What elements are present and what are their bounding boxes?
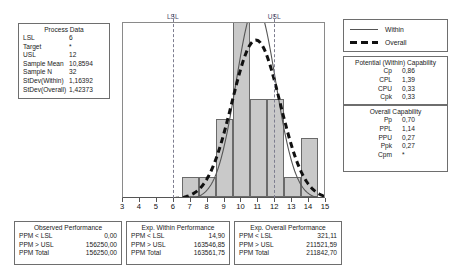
process-data-value: 10,8594	[69, 60, 105, 69]
table-row: Cp0,86	[350, 67, 441, 76]
axis-tick-label: 9	[221, 202, 225, 211]
table-row: CPL1,39	[350, 76, 441, 85]
capability-value: 0,86	[402, 67, 432, 76]
capability-value: 0,33	[402, 93, 432, 102]
performance-value: 14,90	[183, 232, 225, 241]
process-data-label: StDev(Within)	[23, 77, 69, 86]
observed-performance-table: Observed Performance PPM < LSL0,00PPM > …	[14, 221, 122, 265]
performance-value: 321,11	[291, 232, 337, 241]
performance-value: 156250,00	[71, 249, 117, 258]
performance-value: 211842,70	[291, 249, 337, 258]
axis-tick-label: 11	[253, 202, 261, 211]
table-row: CPU0,33	[350, 85, 441, 94]
capability-label: PPU	[350, 134, 402, 143]
process-data-label: LSL	[23, 34, 69, 43]
table-row: Sample Mean10,8594	[23, 60, 105, 69]
performance-value: 163546,85	[183, 241, 225, 250]
table-row: PPL1,14	[350, 125, 441, 134]
legend-dashed-line-icon	[350, 39, 378, 47]
process-data-value: 6	[69, 34, 105, 43]
capability-label: Cpm	[350, 151, 402, 160]
performance-label: PPM Total	[131, 249, 183, 258]
legend-item: Within	[350, 23, 441, 36]
table-row: LSL6	[23, 34, 105, 43]
curve-legend: WithinOverall	[343, 19, 448, 52]
capability-label: CPL	[350, 76, 402, 85]
process-data-value: 32	[69, 68, 105, 77]
process-data-value: 1,16392	[69, 77, 105, 86]
table-row: Cpk0,33	[350, 93, 441, 102]
capability-label: PPL	[350, 125, 402, 134]
axis-tick-label: 12	[270, 202, 278, 211]
capability-label: CPU	[350, 85, 402, 94]
performance-value: 0,00	[71, 232, 117, 241]
table-row: Pp0,70	[350, 116, 441, 125]
table-row: StDev(Overall)1,42373	[23, 86, 105, 95]
overall-capability-rows: Pp0,70PPL1,14PPU0,27Ppk0,27Cpm*	[350, 116, 441, 160]
axis-tick-label: 10	[236, 202, 244, 211]
performance-label: PPM < LSL	[239, 232, 291, 241]
capability-value: *	[402, 151, 432, 160]
curve-overall	[123, 40, 325, 198]
table-row: Cpm*	[350, 151, 441, 160]
process-data-value: 1,42373	[69, 86, 105, 95]
capability-value: 0,27	[402, 134, 432, 143]
plot-frame	[122, 22, 325, 198]
performance-label: PPM > USL	[131, 241, 183, 250]
capability-histogram-chart: LSLUSL	[122, 22, 325, 198]
capability-label: Ppk	[350, 142, 402, 151]
exp-overall-performance-table: Exp. Overall Performance PPM < LSL321,11…	[234, 221, 342, 265]
capability-value: 0,33	[402, 85, 432, 94]
table-row: PPM > USL156250,00	[19, 241, 117, 250]
spec-label-usl: USL	[268, 13, 281, 20]
axis-tick-label: 7	[188, 202, 192, 211]
observed-performance-rows: PPM < LSL0,00PPM > USL156250,00PPM Total…	[19, 232, 117, 258]
axis-tick-label: 8	[204, 202, 208, 211]
within-capability-rows: Cp0,86CPL1,39CPU0,33Cpk0,33	[350, 67, 441, 102]
process-data-label: Sample N	[23, 68, 69, 77]
capability-value: 1,39	[402, 76, 432, 85]
table-row: Sample N32	[23, 68, 105, 77]
legend-solid-line-icon	[350, 26, 378, 34]
performance-value: 211521,59	[291, 241, 337, 250]
overall-capability-table: Overall Capability Pp0,70PPL1,14PPU0,27P…	[343, 105, 448, 172]
capability-label: Cpk	[350, 93, 402, 102]
table-row: PPM < LSL0,00	[19, 232, 117, 241]
axis-tick-label: 5	[154, 202, 158, 211]
axis-tick-label: 4	[137, 202, 141, 211]
performance-label: PPM < LSL	[131, 232, 183, 241]
capability-value: 0,70	[402, 116, 432, 125]
performance-value: 156250,00	[71, 241, 117, 250]
legend-item: Overall	[350, 36, 441, 49]
potential-within-capability-table: Potential (Within) Capability Cp0,86CPL1…	[343, 56, 448, 105]
process-data-title: Process Data	[23, 24, 105, 34]
performance-label: PPM Total	[239, 249, 291, 258]
capability-label: Pp	[350, 116, 402, 125]
legend-label: Overall	[385, 39, 407, 46]
process-data-rows: LSL6Target*USL12Sample Mean10,8594Sample…	[23, 34, 105, 94]
axis-tick-label: 15	[321, 202, 329, 211]
observed-performance-title: Observed Performance	[19, 222, 117, 232]
process-data-value: 12	[69, 51, 105, 60]
spec-line-usl	[274, 14, 275, 198]
table-row: Ppk0,27	[350, 142, 441, 151]
table-row: PPM > USL211521,59	[239, 241, 337, 250]
legend-label: Within	[385, 26, 404, 33]
capability-value: 0,27	[402, 142, 432, 151]
axis-tick-label: 3	[120, 202, 124, 211]
curve-within	[123, 22, 325, 198]
performance-label: PPM > USL	[19, 241, 71, 250]
within-capability-title: Potential (Within) Capability	[350, 57, 441, 67]
exp-within-performance-title: Exp. Within Performance	[131, 222, 225, 232]
process-data-value: *	[69, 43, 105, 52]
process-data-label: USL	[23, 51, 69, 60]
table-row: PPM < LSL14,90	[131, 232, 225, 241]
exp-overall-performance-title: Exp. Overall Performance	[239, 222, 337, 232]
performance-label: PPM > USL	[239, 241, 291, 250]
exp-overall-performance-rows: PPM < LSL321,11PPM > USL211521,59PPM Tot…	[239, 232, 337, 258]
process-data-table: Process Data LSL6Target*USL12Sample Mean…	[18, 23, 110, 99]
table-row: PPM Total156250,00	[19, 249, 117, 258]
performance-label: PPM Total	[19, 249, 71, 258]
distribution-curves	[123, 23, 325, 198]
table-row: Target*	[23, 43, 105, 52]
